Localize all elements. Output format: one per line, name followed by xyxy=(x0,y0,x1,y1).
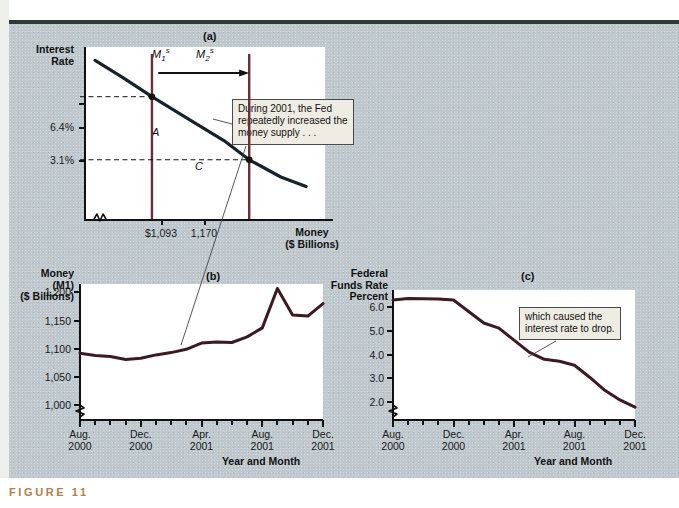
panel-b-xtick-label-0-month: Aug. xyxy=(69,428,91,440)
panel-c-xtick-label-1-year: 2000 xyxy=(442,440,465,452)
panel-b-xtick-0 xyxy=(79,420,81,427)
panel-b-xtick-3 xyxy=(125,420,127,425)
panel-b-xtick-label-4: Dec.2001 xyxy=(296,429,350,452)
m2s-base: M xyxy=(196,48,205,60)
panel-c-callout-box: which caused the interest rate to drop. xyxy=(519,307,621,340)
panel-a-equilibrium-point-a-label: A xyxy=(152,126,159,138)
panel-b-xtick-16 xyxy=(322,420,324,427)
panel-c-xtick-7 xyxy=(498,420,500,425)
panel-c-xtick-2 xyxy=(422,420,424,425)
panel-b-xtick-10 xyxy=(231,420,233,425)
panel-c-xtick-label-3-month: Aug. xyxy=(564,428,586,440)
panel-c-xtick-label-1-month: Dec. xyxy=(443,428,465,440)
panel-c-xtick-label-2-month: Apr. xyxy=(505,428,524,440)
page-left-margin-strip xyxy=(0,0,9,478)
panel-b-y-axis xyxy=(79,284,81,421)
panel-b-ytick-4 xyxy=(74,291,80,293)
m2s-sub: 2 xyxy=(205,54,209,63)
panel-c-callout-line2: interest rate to drop. xyxy=(525,323,615,334)
panel-a-y-axis-title: Interest Rate xyxy=(24,44,74,67)
panel-c-xtick-label-4-month: Dec. xyxy=(624,428,646,440)
panel-b-ytick-label-3: 1,150 xyxy=(22,315,71,327)
panel-c-letter: (c) xyxy=(521,270,534,282)
panel-a-callout-box: During 2001, the Fed repeatedly increase… xyxy=(232,99,354,145)
panel-a-xtick-1170 xyxy=(204,219,206,225)
panel-c-xtick-13 xyxy=(589,420,591,425)
panel-b-ytick-label-1: 1,050 xyxy=(22,371,71,383)
panel-a-callout-line2: repeatedly increased the xyxy=(238,115,348,126)
panel-c-x-axis-title: Year and Month xyxy=(508,456,638,468)
panel-b-ytick-2 xyxy=(74,348,80,350)
panel-c-ytick-label-1: 3.0 xyxy=(338,372,384,384)
panel-b-xtick-6 xyxy=(170,420,172,425)
panel-c-xtick-8 xyxy=(513,420,515,427)
panel-c-xtick-12 xyxy=(574,420,576,427)
panel-c-y-axis-title: Federal Funds Rate Percent xyxy=(328,268,388,303)
panel-c-xtick-6 xyxy=(483,420,485,425)
panel-b-xtick-5 xyxy=(155,420,157,425)
panel-b-xtick-label-3-year: 2001 xyxy=(251,440,274,452)
panel-c-xtick-1 xyxy=(407,420,409,425)
panel-a-ytick-label-64: 6.4% xyxy=(14,121,74,133)
panel-b-xtick-label-4-year: 2001 xyxy=(311,440,334,452)
panel-a-ytick-top xyxy=(79,103,85,105)
panel-c-ytick-4 xyxy=(387,306,393,308)
panel-b-xtick-label-1-year: 2000 xyxy=(129,440,152,452)
panel-b-ytick-label-0: 1,000 xyxy=(22,399,71,411)
panel-c-ytick-label-0: 2.0 xyxy=(338,396,384,408)
panel-b-ytick-1 xyxy=(74,376,80,378)
panel-b-xtick-4 xyxy=(140,420,142,427)
panel-c-xtick-11 xyxy=(558,420,560,425)
panel-a-letter: (a) xyxy=(203,30,216,42)
panel-c-xtick-label-2: Apr.2001 xyxy=(487,429,541,452)
panel-b-xtick-label-2: Apr.2001 xyxy=(175,429,229,452)
panel-c-xtick-label-4: Dec.2001 xyxy=(608,429,662,452)
m1s-sup: s xyxy=(166,46,170,55)
panel-b-letter: (b) xyxy=(206,270,220,282)
panel-c-xtick-label-3-year: 2001 xyxy=(563,440,586,452)
panel-b-xtick-label-3-month: Aug. xyxy=(251,428,273,440)
panel-c-xtick-9 xyxy=(528,420,530,425)
panel-a-equilibrium-point-c-label: C xyxy=(195,160,203,172)
panel-c-ytick-label-2: 4.0 xyxy=(338,349,384,361)
panel-b-xtick-2 xyxy=(109,420,111,425)
panel-b-xtick-label-0-year: 2000 xyxy=(68,440,91,452)
panel-a-y-axis xyxy=(84,47,86,221)
panel-b-xtick-label-0: Aug.2000 xyxy=(53,429,107,452)
panel-b-ytick-3 xyxy=(74,320,80,322)
panel-c-xtick-label-2-year: 2001 xyxy=(502,440,525,452)
panel-c-xtick-label-0-year: 2000 xyxy=(381,440,404,452)
panel-b-x-axis-title: Year and Month xyxy=(196,456,326,468)
panel-c-xtick-15 xyxy=(619,420,621,425)
panel-b-xtick-1 xyxy=(94,420,96,425)
panel-c-xtick-5 xyxy=(468,420,470,425)
panel-c-xtick-4 xyxy=(453,420,455,427)
panel-b-xtick-label-2-year: 2001 xyxy=(190,440,213,452)
panel-a-y-axis-title-line2: Rate xyxy=(51,55,74,67)
panel-b-xtick-label-1: Dec.2000 xyxy=(114,429,168,452)
panel-c-xtick-10 xyxy=(543,420,545,425)
m1s-base: M xyxy=(152,48,161,60)
panel-a-x-axis-title: Money ($ Billions) xyxy=(272,227,352,250)
panel-c-ytick-2 xyxy=(387,354,393,356)
m2s-sup: s xyxy=(210,46,214,55)
panel-a-supply-label-m2s: M2s xyxy=(196,46,214,63)
panel-a-ytick-label-31: 3.1% xyxy=(14,154,74,166)
panel-a-ytick-64 xyxy=(79,127,85,129)
panel-c-xtick-label-4-year: 2001 xyxy=(623,440,646,452)
panel-b-xtick-label-2-month: Apr. xyxy=(192,428,211,440)
panel-b-xtick-8 xyxy=(201,420,203,427)
m1s-sub: 1 xyxy=(161,54,165,63)
panel-b-plot-area xyxy=(80,284,323,419)
panel-c-xtick-label-0-month: Aug. xyxy=(382,428,404,440)
panel-c-xtick-16 xyxy=(634,420,636,427)
panel-c-ytick-3 xyxy=(387,330,393,332)
panel-b-xtick-label-4-month: Dec. xyxy=(312,428,334,440)
panel-a-x-axis xyxy=(84,219,333,221)
panel-c-ytick-label-4: 6.0 xyxy=(338,301,384,313)
panel-c-xtick-label-0: Aug.2000 xyxy=(366,429,420,452)
panel-b-xtick-14 xyxy=(292,420,294,425)
panel-a-xtick-label-1170: 1,170 xyxy=(176,228,232,240)
panel-c-callout-line1: which caused the xyxy=(525,311,602,322)
panel-a-x-axis-title-line2: ($ Billions) xyxy=(285,238,339,250)
